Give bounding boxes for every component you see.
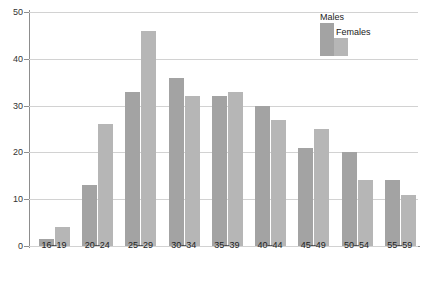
- y-tick-label-30: 30: [13, 101, 23, 111]
- legend-label-females: Females: [336, 27, 371, 37]
- bar-group: [123, 12, 166, 246]
- bar-females: [228, 92, 243, 246]
- y-tick-label-0: 0: [18, 241, 23, 251]
- legend: Males Females: [320, 12, 416, 60]
- x-tick-label: 55–59: [370, 240, 424, 250]
- legend-swatch-males: [320, 23, 334, 56]
- bar-group: [253, 12, 296, 246]
- y-tick-label-10: 10: [13, 194, 23, 204]
- bar-males: [385, 180, 400, 246]
- bar-males: [212, 96, 227, 246]
- bar-females: [98, 124, 113, 246]
- y-tick-label-20: 20: [13, 147, 23, 157]
- bar-chart: 01020304050 16–1920–2425–2930–3435–3940–…: [0, 0, 424, 283]
- bar-males: [169, 78, 184, 246]
- y-tick-label-50: 50: [13, 7, 23, 17]
- bar-males: [342, 152, 357, 246]
- bar-males: [125, 92, 140, 246]
- bar-group: [37, 12, 80, 246]
- bar-males: [255, 106, 270, 246]
- bar-group: [210, 12, 253, 246]
- bar-males: [298, 148, 313, 246]
- bar-females: [314, 129, 329, 246]
- bar-females: [401, 195, 416, 246]
- bar-males: [82, 185, 97, 246]
- bar-females: [141, 31, 156, 246]
- y-tick-label-40: 40: [13, 54, 23, 64]
- legend-label-males: Males: [320, 12, 344, 22]
- bar-females: [271, 120, 286, 246]
- bar-females: [185, 96, 200, 246]
- bar-group: [80, 12, 123, 246]
- legend-swatch-females: [334, 38, 348, 56]
- bar-group: [167, 12, 210, 246]
- bar-females: [358, 180, 373, 246]
